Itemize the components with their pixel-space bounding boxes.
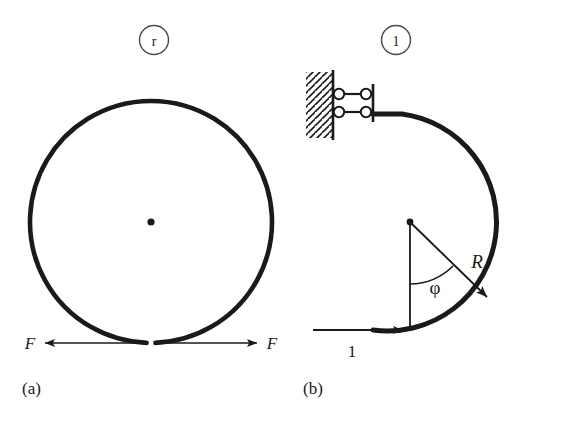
support-pin-upper-right xyxy=(361,89,371,99)
support-hatching xyxy=(306,72,332,138)
support-assembly xyxy=(306,70,373,140)
support-pin-lower-right xyxy=(361,107,371,117)
caption-panel-b: (b) xyxy=(303,379,323,398)
panel-a-badge: r xyxy=(140,26,169,55)
load-label: 1 xyxy=(348,342,357,361)
ring-center-dot xyxy=(147,218,154,225)
radius-label: R xyxy=(470,251,483,272)
force-label-left: F xyxy=(24,334,36,353)
badge-label-a: r xyxy=(152,34,157,49)
support-pin-upper-left xyxy=(334,89,344,99)
angle-label: φ xyxy=(430,277,441,298)
curved-beam-arc xyxy=(373,114,497,331)
badge-label-b: 1 xyxy=(393,34,400,49)
force-label-right: F xyxy=(266,334,278,353)
panel-a-group: r F F (a) xyxy=(22,26,278,399)
support-pin-lower-left xyxy=(334,107,344,117)
technical-figure: r F F (a) 1 xyxy=(0,0,563,429)
caption-panel-a: (a) xyxy=(22,379,41,398)
panel-b-group: 1 xyxy=(303,26,497,399)
figure-canvas: r F F (a) 1 xyxy=(0,0,563,429)
panel-b-badge: 1 xyxy=(382,26,411,55)
